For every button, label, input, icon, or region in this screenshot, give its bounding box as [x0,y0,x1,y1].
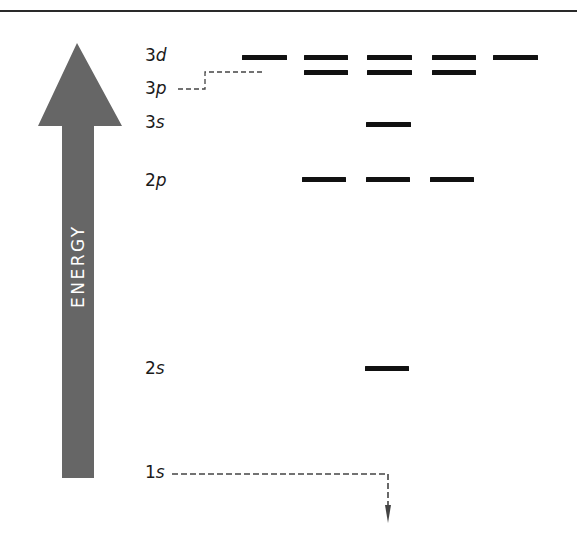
orbital-2p-2 [366,177,410,182]
orbital-3s [366,122,411,127]
level-label-3s: 3s [145,114,165,131]
orbital-3d-3 [367,55,412,60]
orbital-3p-1 [304,70,348,75]
level-label-3d: 3d [145,47,167,64]
1s-leader-line [172,474,388,510]
orbital-3p-3 [432,70,476,75]
level-label-3p: 3p [145,80,167,97]
orbital-3d-4 [432,55,476,60]
orbital-3d-2 [304,55,348,60]
level-label-2p: 2p [145,172,167,189]
orbital-2p-1 [302,177,346,182]
orbital-2p-3 [430,177,474,182]
energy-axis-label: ENERGY [68,224,88,308]
orbital-3p-2 [367,70,412,75]
level-label-2s: 2s [145,360,165,377]
orbital-2s [365,366,409,371]
down-arrow-icon [385,505,391,523]
level-label-1s: 1s [145,464,165,481]
orbital-3d-1 [242,55,287,60]
orbital-3d-5 [493,55,538,60]
energy-level-diagram: ENERGY [0,0,577,536]
3p-leader-line [178,72,263,89]
